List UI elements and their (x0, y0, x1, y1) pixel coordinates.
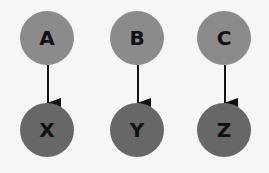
nodes: ABCXYZ (20, 11, 251, 157)
node-label: Z (217, 118, 232, 142)
node-a: A (20, 11, 74, 65)
node-label: X (39, 118, 55, 142)
node-b: B (110, 11, 164, 65)
node-z: Z (197, 103, 251, 157)
node-y: Y (110, 103, 164, 157)
node-x: X (20, 103, 74, 157)
node-label: C (217, 26, 232, 50)
diagram-canvas: ABCXYZ (0, 0, 269, 173)
node-label: A (39, 26, 55, 50)
node-label: Y (129, 118, 145, 142)
node-label: B (129, 26, 144, 50)
edges (48, 65, 225, 103)
node-c: C (197, 11, 251, 65)
